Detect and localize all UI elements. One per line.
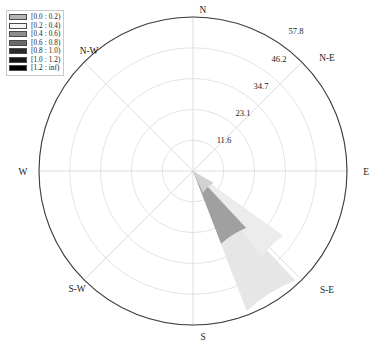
legend-item[interactable]: [1.0 : 1.2) [9, 56, 60, 65]
legend-item-label: [1.2 : inf) [31, 64, 59, 73]
direction-label-e: E [363, 167, 369, 177]
radial-tick-34-7: 34.7 [253, 81, 269, 91]
direction-label-n: N [200, 5, 207, 15]
legend-item[interactable]: [1.2 : inf) [9, 64, 60, 73]
legend-swatch-icon [9, 57, 27, 63]
legend-item[interactable]: [0.6 : 0.8) [9, 39, 60, 48]
direction-label-ne: N-E [319, 53, 335, 63]
legend-swatch-icon [9, 40, 27, 46]
legend-swatch-icon [9, 14, 27, 20]
legend-item[interactable]: [0.0 : 0.2) [9, 13, 60, 22]
windrose-petals [193, 171, 295, 311]
legend-swatch-icon [9, 31, 27, 37]
legend-swatch-icon [9, 23, 27, 29]
legend-swatch-icon [9, 65, 27, 71]
radial-tick-46-2: 46.2 [271, 54, 286, 64]
radial-tick-23-1: 23.1 [235, 108, 250, 118]
direction-label-w: W [19, 167, 28, 177]
legend-item-label: [1.0 : 1.2) [31, 56, 60, 65]
legend-item-label: [0.4 : 0.6) [31, 30, 60, 39]
windrose-chart: 11.6 23.1 34.7 46.2 57.8 N N-E E S-E S S… [0, 0, 379, 347]
legend-item-label: [0.8 : 1.0) [31, 47, 60, 56]
legend-item-label: [0.6 : 0.8) [31, 39, 60, 48]
direction-label-s: S [200, 332, 205, 342]
legend-item-label: [0.0 : 0.2) [31, 13, 60, 22]
direction-label-nw: N-W [80, 46, 99, 56]
direction-label-sw: S-W [68, 284, 85, 294]
legend-item[interactable]: [0.8 : 1.0) [9, 47, 60, 56]
radial-tick-57-8: 57.8 [288, 26, 303, 36]
legend-item[interactable]: [0.4 : 0.6) [9, 30, 60, 39]
legend-swatch-icon [9, 48, 27, 54]
legend: [0.0 : 0.2) [0.2 : 0.4) [0.4 : 0.6) [0.6… [6, 10, 64, 76]
radial-tick-11-6: 11.6 [217, 135, 232, 145]
legend-item[interactable]: [0.2 : 0.4) [9, 22, 60, 31]
direction-label-se: S-E [320, 285, 334, 295]
legend-item-label: [0.2 : 0.4) [31, 22, 60, 31]
